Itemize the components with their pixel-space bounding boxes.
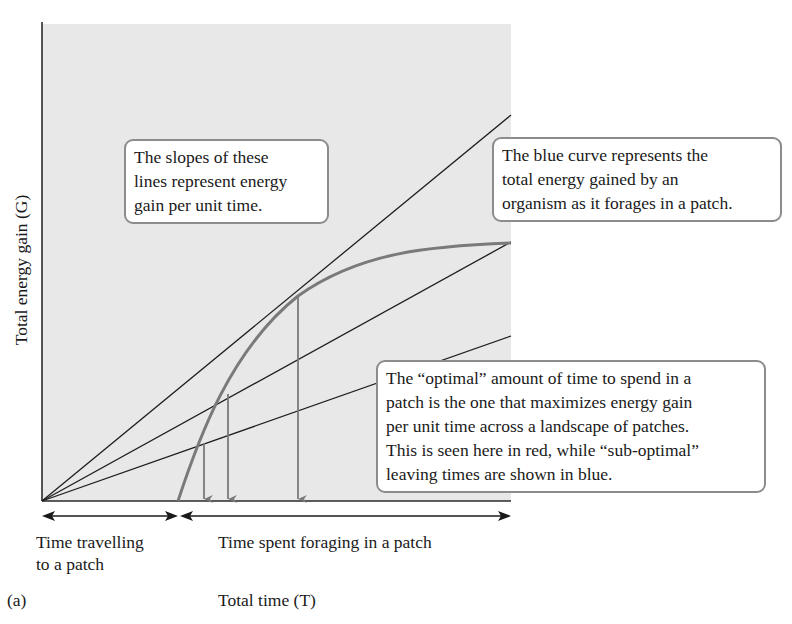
callout-slopes-line2: lines represent energy — [134, 169, 319, 193]
foraging-interval-arrow — [180, 511, 511, 521]
callout-optimal-line3: per unit time across a landscape of patc… — [386, 414, 756, 438]
callout-optimal-line2: patch is the one that maximizes energy g… — [386, 390, 756, 414]
travel-interval-arrow — [42, 511, 178, 521]
x-axis-label: Total time (T) — [218, 589, 316, 611]
callout-slopes-line1: The slopes of these — [134, 145, 319, 169]
callout-slopes-line3: gain per unit time. — [134, 193, 319, 217]
y-axis-label: Total energy gain (G) — [11, 195, 32, 346]
travel-time-label-line2: to a patch — [36, 553, 144, 575]
callout-optimal-line1: The “optimal” amount of time to spend in… — [386, 366, 756, 390]
callout-optimal-line4: This is seen here in red, while “sub-opt… — [386, 438, 756, 462]
travel-time-label-line1: Time travelling — [36, 531, 144, 553]
panel-label: (a) — [7, 589, 26, 611]
callout-optimal: The “optimal” amount of time to spend in… — [376, 360, 766, 493]
callout-curve-line2: total energy gained by an — [502, 167, 772, 191]
travel-time-label: Time travelling to a patch — [36, 531, 144, 575]
callout-slopes: The slopes of these lines represent ener… — [124, 139, 329, 224]
callout-curve-line1: The blue curve represents the — [502, 143, 772, 167]
callout-curve: The blue curve represents the total ener… — [492, 137, 782, 222]
foraging-time-label: Time spent foraging in a patch — [218, 531, 432, 553]
callout-curve-line3: organism as it forages in a patch. — [502, 191, 772, 215]
callout-optimal-line5: leaving times are shown in blue. — [386, 462, 756, 486]
